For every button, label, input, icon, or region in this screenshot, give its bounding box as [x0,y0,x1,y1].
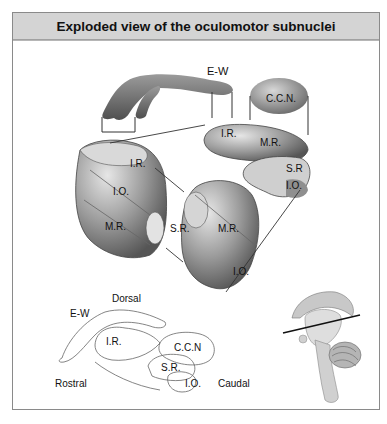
label-sr-left: S.R. [170,223,189,234]
figure-title: Exploded view of the oculomotor subnucle… [56,19,335,34]
oculomotor-diagram: E-W C.C.N. I.R. M.R. S.R I.O. I.R. I.O. … [0,0,387,424]
label-schematic-ccn: C.C.N [174,342,201,353]
label-ccn: C.C.N. [266,93,296,104]
label-schematic-ew: E-W [70,308,90,319]
label-ew: E-W [207,65,229,77]
label-io-left: I.O. [113,186,129,197]
label-io-center: I.O. [233,266,249,277]
label-dorsal: Dorsal [112,293,141,304]
label-io-top: I.O. [286,180,302,191]
label-ir-top: I.R. [221,128,237,139]
label-mr-top: M.R. [260,137,281,148]
label-rostral: Rostral [55,378,87,389]
label-schematic-ir: I.R. [106,336,122,347]
label-mr-left: M.R. [105,221,126,232]
label-ir-left: I.R. [130,158,146,169]
label-schematic-sr: S.R. [161,362,180,373]
label-sr-top: S.R [286,163,303,174]
label-mr-center: M.R. [218,223,239,234]
label-caudal: Caudal [218,378,250,389]
label-schematic-io: I.O. [185,378,201,389]
